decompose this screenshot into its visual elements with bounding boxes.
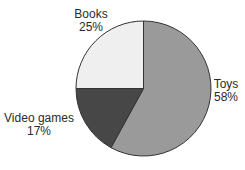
label-toys: Toys 58% xyxy=(206,78,245,104)
label-books-value: 25% xyxy=(64,21,118,34)
label-books: Books 25% xyxy=(64,8,118,34)
label-video-games: Video games 17% xyxy=(0,112,78,138)
pie-slices xyxy=(76,21,211,156)
label-video-games-value: 17% xyxy=(0,125,78,138)
label-toys-value: 58% xyxy=(206,91,245,104)
